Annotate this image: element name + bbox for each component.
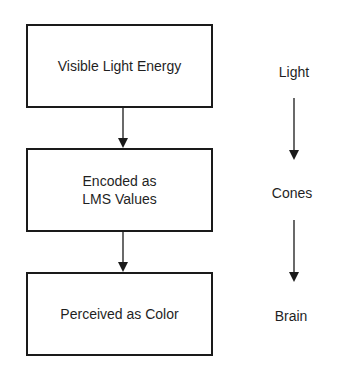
arrow-down-icon [118,232,128,272]
arrow-down-icon [289,98,299,160]
arrow-down-icon [289,220,299,282]
arrows-layer [0,0,340,380]
arrow-down-icon [118,108,128,148]
